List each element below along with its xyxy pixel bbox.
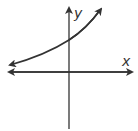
exponential-curve [10,10,100,65]
graph [0,0,138,131]
y-axis-label: y [74,6,82,20]
x-axis-label: x [122,54,130,68]
